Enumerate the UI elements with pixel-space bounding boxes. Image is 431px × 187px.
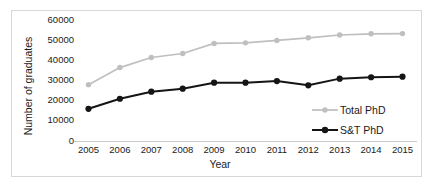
x-axis-tick-label: 2011 [260, 144, 294, 155]
x-axis-tick-label: 2006 [103, 144, 137, 155]
x-axis-title: Year [170, 158, 270, 170]
legend-label-st-phd: S&T PhD [340, 124, 384, 136]
x-axis-tick-label: 2015 [386, 144, 420, 155]
x-axis-tick-label: 2014 [354, 144, 388, 155]
x-axis-tick-label: 2010 [229, 144, 263, 155]
x-axis-tick-label: 2012 [291, 144, 325, 155]
x-axis-tick-label: 2008 [166, 144, 200, 155]
x-axis-tick-label: 2007 [134, 144, 168, 155]
x-axis-tick-label: 2005 [72, 144, 106, 155]
legend-label-total-phd: Total PhD [340, 104, 386, 116]
x-axis-tick-label: 2009 [197, 144, 231, 155]
x-axis-tick-label: 2013 [323, 144, 357, 155]
chart-figure: Number of graduates 01000020000300004000… [0, 0, 431, 187]
